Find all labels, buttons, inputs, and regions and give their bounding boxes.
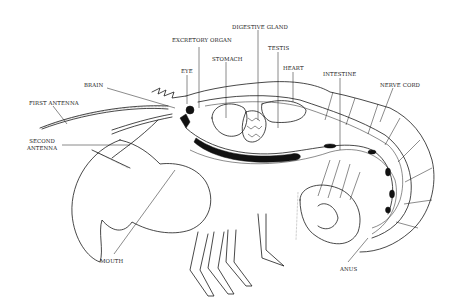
label-second-antenna: SECOND ANTENNA xyxy=(27,138,57,151)
label-stomach: STOMACH xyxy=(212,56,243,63)
label-eye: EYE xyxy=(181,68,193,75)
stomach-shape xyxy=(212,104,247,136)
eye-shape xyxy=(186,106,194,114)
label-testis: TESTIS xyxy=(268,45,289,52)
label-anus: ANUS xyxy=(340,266,357,273)
label-excretory-organ: EXCRETORY ORGAN xyxy=(172,37,232,44)
label-first-antenna: FIRST ANTENNA xyxy=(29,100,79,107)
lobster-illustration xyxy=(0,0,464,308)
lobster-anatomy-diagram: EXCRETORY ORGAN DIGESTIVE GLAND TESTIS S… xyxy=(0,0,464,308)
leader-lines xyxy=(53,30,393,262)
label-mouth: MOUTH xyxy=(100,258,123,265)
heart-shape xyxy=(261,101,306,123)
label-nerve-cord: NERVE CORD xyxy=(380,82,420,89)
label-intestine: INTESTINE xyxy=(323,71,356,78)
label-digestive-gland: DIGESTIVE GLAND xyxy=(232,24,288,31)
label-heart: HEART xyxy=(283,65,304,72)
label-brain: BRAIN xyxy=(84,82,103,89)
